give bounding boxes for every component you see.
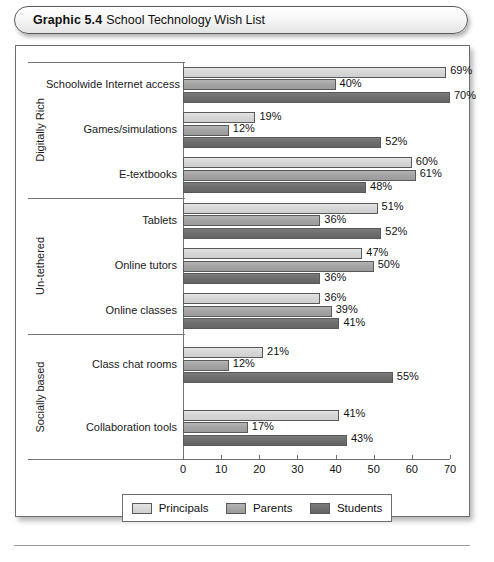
x-axis-tick xyxy=(221,455,222,459)
figure-caption: School Technology Wish List xyxy=(106,13,265,27)
bar-value-label: 70% xyxy=(454,89,476,101)
group-rule xyxy=(28,459,185,460)
legend-label: Parents xyxy=(253,502,293,514)
bar-value-label: 48% xyxy=(370,180,392,192)
category-label: Tablets xyxy=(46,214,177,226)
group-title-2: Un-tethered xyxy=(34,237,46,295)
legend-swatch-icon xyxy=(226,503,246,514)
category-label: Collaboration tools xyxy=(46,421,177,433)
bar-principals xyxy=(183,203,378,214)
x-axis-tick-label: 10 xyxy=(201,463,241,475)
bar-value-label: 50% xyxy=(378,258,400,270)
bar-value-label: 12% xyxy=(233,122,255,134)
bar-principals xyxy=(183,248,362,259)
bar-parents xyxy=(183,215,320,226)
chart-frame: Digitally RichUn-tetheredSocially basedS… xyxy=(15,45,470,517)
bar-value-label: 60% xyxy=(416,155,438,167)
bar-students xyxy=(183,92,450,103)
x-axis-tick-label: 30 xyxy=(277,463,317,475)
bar-principals xyxy=(183,67,446,78)
x-axis-tick xyxy=(450,455,451,459)
bar-value-label: 55% xyxy=(397,370,419,382)
bar-value-label: 19% xyxy=(259,110,281,122)
bar-students xyxy=(183,372,393,383)
bar-value-label: 41% xyxy=(343,316,365,328)
legend-label: Principals xyxy=(159,502,209,514)
bar-value-label: 43% xyxy=(351,432,373,444)
category-label: Games/simulations xyxy=(46,123,177,135)
bar-value-label: 52% xyxy=(385,225,407,237)
bar-value-label: 17% xyxy=(252,420,274,432)
figure-page: Graphic 5.4 School Technology Wish List … xyxy=(0,0,494,562)
x-axis-line xyxy=(183,459,450,460)
bar-students xyxy=(183,228,381,239)
bar-students xyxy=(183,182,366,193)
bar-parents xyxy=(183,125,229,136)
bar-students xyxy=(183,318,339,329)
legend-label: Students xyxy=(337,502,382,514)
bar-value-label: 12% xyxy=(233,357,255,369)
bar-value-label: 47% xyxy=(366,246,388,258)
bar-parents xyxy=(183,79,336,90)
x-axis-tick-label: 20 xyxy=(239,463,279,475)
bar-students xyxy=(183,137,381,148)
x-axis-tick-label: 50 xyxy=(354,463,394,475)
chart-plot-area: Digitally RichUn-tetheredSocially basedS… xyxy=(16,46,471,518)
category-label: Class chat rooms xyxy=(46,358,177,370)
x-axis-tick-label: 40 xyxy=(316,463,356,475)
x-axis-tick-label: 0 xyxy=(163,463,203,475)
legend-item-principals[interactable]: Principals xyxy=(132,502,209,514)
legend-item-students[interactable]: Students xyxy=(310,502,382,514)
chart-legend: PrincipalsParentsStudents xyxy=(122,494,392,522)
group-rule xyxy=(28,62,185,63)
legend-item-parents[interactable]: Parents xyxy=(226,502,293,514)
x-axis-tick xyxy=(183,455,184,459)
bar-principals xyxy=(183,293,320,304)
legend-swatch-icon xyxy=(132,503,152,514)
x-axis-tick xyxy=(374,455,375,459)
category-label: E-textbooks xyxy=(46,168,177,180)
category-label: Schoolwide Internet access xyxy=(46,78,177,90)
bar-value-label: 51% xyxy=(382,200,404,212)
bar-value-label: 21% xyxy=(267,345,289,357)
x-axis-tick xyxy=(336,455,337,459)
x-axis-tick xyxy=(259,455,260,459)
bar-value-label: 40% xyxy=(340,77,362,89)
category-label: Online classes xyxy=(46,304,177,316)
bar-value-label: 52% xyxy=(385,135,407,147)
x-axis-tick xyxy=(412,455,413,459)
bar-value-label: 36% xyxy=(324,213,346,225)
bar-value-label: 36% xyxy=(324,271,346,283)
bar-value-label: 39% xyxy=(336,303,358,315)
bar-students xyxy=(183,273,320,284)
bar-value-label: 61% xyxy=(420,167,442,179)
bar-parents xyxy=(183,422,248,433)
bar-principals xyxy=(183,157,412,168)
group-rule xyxy=(28,198,185,199)
page-divider xyxy=(14,545,470,546)
figure-title-bar: Graphic 5.4 School Technology Wish List xyxy=(14,6,468,34)
group-title-1: Digitally Rich xyxy=(34,98,46,162)
x-axis-tick xyxy=(297,455,298,459)
x-axis-tick-label: 70 xyxy=(430,463,470,475)
bar-value-label: 69% xyxy=(450,64,472,76)
bar-value-label: 36% xyxy=(324,291,346,303)
category-label: Online tutors xyxy=(46,259,177,271)
bar-value-label: 41% xyxy=(343,407,365,419)
bar-students xyxy=(183,435,347,446)
bar-parents xyxy=(183,360,229,371)
x-axis-tick-label: 60 xyxy=(392,463,432,475)
legend-swatch-icon xyxy=(310,503,330,514)
group-title-3: Socially based xyxy=(34,361,46,432)
figure-label: Graphic 5.4 xyxy=(33,13,102,27)
group-rule xyxy=(28,334,185,335)
bar-parents xyxy=(183,306,332,317)
